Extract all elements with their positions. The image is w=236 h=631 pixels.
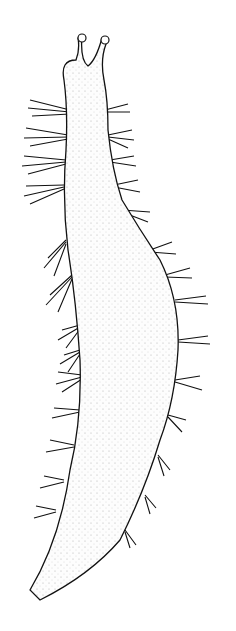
left-antenna-tip xyxy=(78,34,86,42)
illustration-canvas xyxy=(0,0,236,631)
right-antenna-tip xyxy=(101,36,109,44)
stipple-shading xyxy=(30,36,178,600)
worm-illustration xyxy=(0,0,236,631)
